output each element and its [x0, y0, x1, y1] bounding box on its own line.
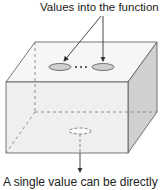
input-slot-first — [49, 64, 71, 71]
output-slot — [69, 128, 91, 134]
output-value-label: A single value can be directly — [3, 175, 158, 189]
input-slot-last — [92, 64, 114, 71]
box-front-face — [6, 82, 128, 153]
function-box-diagram — [0, 0, 165, 190]
